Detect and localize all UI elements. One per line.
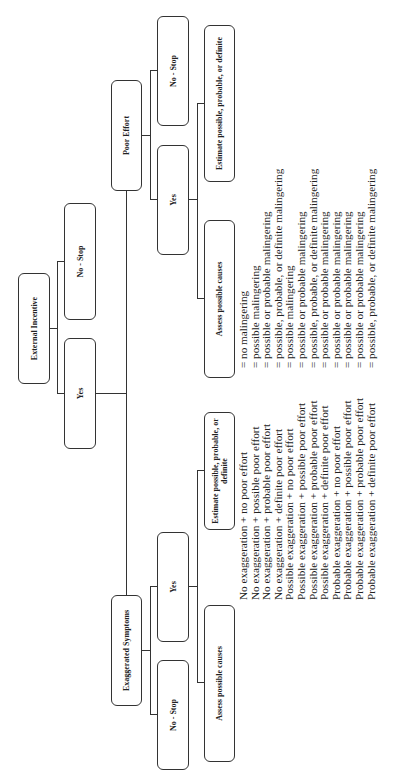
outcome-item: = possible or probable malingering — [354, 169, 366, 368]
combination-list: No exaggeration + no poor effort No exag… — [238, 398, 377, 600]
connector — [150, 199, 157, 200]
exaggerated-symptoms-no-stop-node: No - Stop — [157, 660, 189, 770]
connector — [197, 103, 198, 299]
connector — [150, 586, 157, 587]
exaggerated-symptoms-node: Exaggerated Symptoms — [111, 595, 142, 706]
outcome-item: = no malingering — [238, 169, 250, 368]
connector — [150, 587, 151, 715]
outcome-item: = possible or probable malingering — [296, 169, 308, 368]
external-incentive-no-stop-node: No - Stop — [64, 203, 96, 320]
outcome-list: = no malingering = possible malingering … — [238, 169, 377, 368]
external-incentive-yes-node: Yes — [64, 338, 96, 449]
connector — [126, 136, 127, 651]
exaggerated-assess-causes-node: Assess possible causes — [204, 605, 235, 762]
connector — [57, 393, 64, 394]
external-incentive-node: External Incentive — [18, 273, 50, 384]
connector — [197, 298, 204, 299]
connector — [197, 471, 198, 683]
connector — [57, 261, 58, 394]
connector — [50, 328, 57, 329]
connector — [57, 261, 64, 262]
connector — [197, 682, 204, 683]
connector — [197, 470, 204, 471]
connector — [142, 650, 150, 651]
combination-item: Probable exaggeration + definite poor ef… — [366, 398, 378, 600]
poor-effort-yes-node: Yes — [157, 145, 189, 255]
poor-effort-assess-causes-node: Assess possible causes — [204, 220, 235, 378]
outcome-item: = possible, probable, or definite maling… — [366, 169, 378, 368]
connector — [197, 103, 204, 104]
poor-effort-estimate-node: Estimate possible, probable, or definite — [204, 25, 235, 182]
connector — [142, 135, 150, 136]
poor-effort-node: Poor Effort — [111, 80, 142, 191]
malingering-decision-tree: External Incentive Yes No - Stop Exagger… — [0, 0, 400, 773]
connector — [96, 393, 126, 394]
combination-item: Possible exaggeration + possible poor ef… — [296, 398, 308, 600]
combination-item: No exaggeration + no poor effort — [238, 398, 250, 600]
connector — [150, 70, 151, 200]
exaggerated-estimate-node: Estimate possible, probable, or definite — [204, 412, 235, 530]
combination-item: Probable exaggeration + probable poor ef… — [354, 398, 366, 600]
outcome-item: = possible or probable malingering — [319, 169, 331, 368]
combination-item: Possible exaggeration + definite poor ef… — [319, 398, 331, 600]
connector — [150, 70, 157, 71]
connector — [150, 714, 157, 715]
poor-effort-no-stop-node: No - Stop — [157, 16, 189, 126]
connector — [189, 199, 197, 200]
exaggerated-symptoms-yes-node: Yes — [157, 532, 189, 642]
connector — [189, 586, 197, 587]
